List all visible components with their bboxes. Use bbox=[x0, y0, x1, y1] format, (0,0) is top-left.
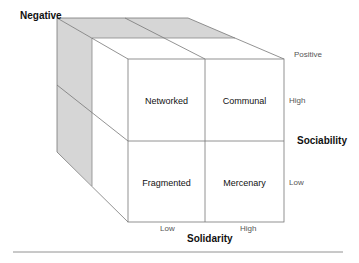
cell-fragmented: Fragmented bbox=[128, 179, 205, 188]
cell-networked: Networked bbox=[128, 97, 205, 106]
solidarity-high-label: High bbox=[240, 225, 256, 233]
cell-mercenary: Mercenary bbox=[205, 179, 284, 188]
solidarity-title: Solidarity bbox=[187, 234, 233, 244]
positive-label: Positive bbox=[294, 51, 322, 59]
cube-diagram bbox=[0, 0, 359, 263]
sociability-title: Sociability bbox=[297, 136, 347, 146]
front-face bbox=[128, 59, 284, 222]
negative-label: Negative bbox=[20, 11, 62, 21]
sociability-low-label: Low bbox=[289, 179, 304, 187]
solidarity-low-label: Low bbox=[160, 225, 175, 233]
cell-communal: Communal bbox=[205, 97, 284, 106]
left-face-shade bbox=[57, 18, 92, 186]
sociability-high-label: High bbox=[289, 97, 305, 105]
